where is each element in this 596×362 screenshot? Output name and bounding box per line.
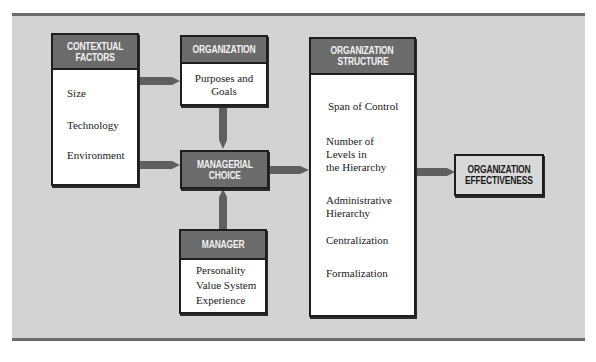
- arrow-manager-to-managerial-choice: [217, 189, 229, 230]
- managerial-choice-title-1: MANAGERIAL: [197, 159, 253, 170]
- structure-item-formalization: Formalization: [326, 267, 388, 280]
- manager-item-personality: Personality: [196, 264, 246, 277]
- organization-structure-box: ORGANIZATION STRUCTURE Span of Control N…: [309, 37, 416, 317]
- manager-item-experience: Experience: [196, 294, 245, 307]
- structure-item-administrative-hierarchy: Administrative Hierarchy: [326, 194, 392, 220]
- structure-item-centralization: Centralization: [326, 234, 388, 247]
- manager-title: MANAGER: [202, 239, 245, 250]
- managerial-choice-box: MANAGERIAL CHOICE: [180, 150, 269, 189]
- organization-structure-header: ORGANIZATION STRUCTURE: [311, 39, 414, 75]
- manager-box: MANAGER Personality Value System Experie…: [179, 229, 267, 314]
- contextual-factors-title-2: FACTORS: [75, 52, 114, 63]
- organization-effectiveness-box: ORGANIZATION EFFECTIVENESS: [454, 154, 544, 196]
- managerial-choice-title-2: CHOICE: [208, 170, 240, 181]
- manager-header: MANAGER: [181, 231, 265, 260]
- arrow-structure-to-effectiveness: [415, 166, 456, 178]
- contextual-factors-box: CONTEXTUAL FACTORS Size Technology Envir…: [51, 33, 139, 186]
- contextual-factors-title-1: CONTEXTUAL: [67, 41, 123, 52]
- organization-structure-title-1: ORGANIZATION: [331, 45, 394, 56]
- organization-purposes-goals: Purposes and Goals: [182, 72, 266, 98]
- arrow-contextual-to-managerial-choice: [138, 159, 182, 171]
- structure-item-levels: Number of Levels in the Hierarchy: [326, 135, 386, 174]
- organization-effectiveness-title-2: EFFECTIVENESS: [465, 175, 533, 186]
- contextual-item-size: Size: [67, 87, 86, 100]
- organization-box: ORGANIZATION Purposes and Goals: [180, 35, 268, 106]
- arrow-contextual-to-organization: [138, 75, 182, 87]
- organization-effectiveness-title-1: ORGANIZATION: [468, 164, 531, 175]
- contextual-factors-header: CONTEXTUAL FACTORS: [53, 35, 137, 70]
- organization-structure-title-2: STRUCTURE: [337, 56, 388, 67]
- arrow-organization-to-managerial-choice: [217, 106, 229, 150]
- contextual-item-technology: Technology: [67, 119, 119, 132]
- manager-item-value-system: Value System: [196, 279, 256, 292]
- managerial-choice-header: MANAGERIAL CHOICE: [182, 152, 267, 187]
- structure-item-span-of-control: Span of Control: [328, 100, 398, 113]
- organization-header: ORGANIZATION: [182, 37, 266, 64]
- arrow-managerial-choice-to-structure: [268, 164, 310, 176]
- organization-effectiveness-label: ORGANIZATION EFFECTIVENESS: [456, 156, 542, 194]
- organization-title: ORGANIZATION: [193, 44, 256, 55]
- contextual-item-environment: Environment: [67, 149, 124, 162]
